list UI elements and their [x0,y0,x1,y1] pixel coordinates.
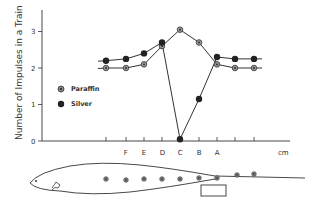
electrode-center [253,173,255,175]
x-tick-label: A [215,149,220,157]
y-tick-label: 0 [31,138,35,146]
electrode-center [236,174,238,176]
paraffin-point-center [143,63,145,65]
fish-outline [30,163,305,183]
legend-silver: Silver [71,100,93,108]
series-lines [98,30,262,140]
paraffin-point-center [253,67,255,69]
legend-paraffin: Paraffin [71,85,100,93]
paraffin-point-center [105,67,107,69]
fish-eye-icon [35,180,37,182]
fish-fin-icon [52,182,60,190]
y-tick-label: 1 [31,101,35,109]
paraffin-point-center [125,67,127,69]
y-tick-label: 3 [31,28,35,36]
electrode-center [125,179,127,181]
electrodes [104,172,257,183]
y-axis-label: Number of Impulses in a Train [14,5,24,140]
silver-point [214,54,220,60]
silver-point [196,96,202,102]
silver-point [159,39,165,45]
silver-point [103,58,109,64]
electrode-center [161,178,163,180]
x-tick-label: B [197,149,202,157]
electrode-center [105,178,107,180]
electrode-center [143,178,145,180]
paraffin-point-center [198,42,200,44]
paraffin-marker-dot-icon [60,88,62,90]
x-tick-label: C [178,149,183,157]
silver-point [232,56,238,62]
electrode-center [216,177,218,179]
silver-point [123,56,129,62]
paraffin-point-center [179,29,181,31]
silver-point [251,56,257,62]
fish-belly [30,179,215,194]
x-tick-label: E [142,149,146,157]
electrode-center [198,177,200,179]
silver-point [177,136,183,142]
x-unit-label: cm [278,149,289,157]
y-ticks: 0123 [31,28,42,146]
chart: Number of Impulses in a Train 0123 FEDCB… [0,0,317,210]
paraffin-line [98,30,262,69]
silver-point [141,50,147,56]
paraffin-point-center [216,63,218,65]
legend: Paraffin Silver [58,85,100,108]
paraffin-point-center [234,67,236,69]
x-tick-label: D [160,149,165,157]
electrode-center [179,178,181,180]
silver-marker-icon [58,101,64,107]
series-markers [103,27,257,143]
fish-diagram [30,163,305,196]
y-tick-label: 2 [31,65,35,73]
object-box [201,185,226,196]
x-tick-label: F [124,149,128,157]
